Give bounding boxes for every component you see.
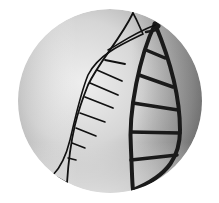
dna-helix-photo (0, 0, 219, 203)
circular-frame (0, 0, 219, 203)
